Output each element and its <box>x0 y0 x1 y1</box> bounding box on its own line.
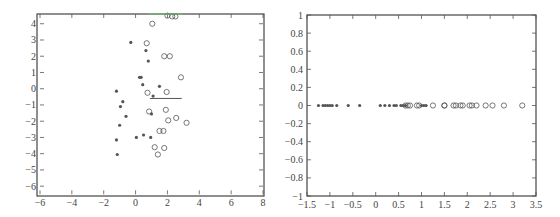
x-tick-label: 1.5 <box>438 199 451 210</box>
circle-marker <box>483 103 488 108</box>
star-marker <box>129 41 132 44</box>
x-tick-label: 2 <box>465 199 470 210</box>
x-tick-label: 4 <box>197 197 202 208</box>
y-tick-label: −0.8 <box>285 172 303 183</box>
x-tick-label: −4 <box>67 197 78 208</box>
y-tick-label: −0.2 <box>285 118 303 129</box>
circle-marker <box>174 115 179 120</box>
y-tick-label: 0.2 <box>291 82 304 93</box>
star-marker <box>135 136 138 139</box>
circle-marker <box>163 107 168 112</box>
y-tick-label: 0.4 <box>291 64 304 75</box>
star-marker <box>151 94 154 97</box>
right-y-tick-labels: 10.80.60.40.20−0.2−0.4−0.6−0.8−1 <box>285 10 303 202</box>
right-data-series <box>317 103 525 108</box>
y-tick-label: 2 <box>31 51 36 62</box>
y-tick-label: 0 <box>31 83 36 94</box>
star-marker <box>115 90 118 93</box>
circle-marker <box>161 128 166 133</box>
y-tick-label: −5 <box>25 164 36 175</box>
circle-marker <box>178 75 183 80</box>
circle-marker <box>150 21 155 26</box>
x-tick-label: 3 <box>511 199 516 210</box>
y-tick-label: 0 <box>298 100 303 111</box>
circle-marker <box>520 103 525 108</box>
star-marker <box>121 100 124 103</box>
circle-marker <box>145 90 150 95</box>
left-scatter-plot: −6−4−202468 43210−1−2−3−4−5−6 <box>25 13 265 208</box>
y-tick-label: 1 <box>31 67 36 78</box>
y-tick-label: −1 <box>25 99 36 110</box>
left-plot-frame <box>37 14 264 196</box>
x-tick-label: −1 <box>325 199 336 210</box>
star-marker <box>144 49 147 52</box>
left-x-tick-labels: −6−4−202468 <box>35 197 266 208</box>
y-tick-label: −6 <box>25 181 36 192</box>
y-tick-label: −2 <box>25 116 36 127</box>
circle-marker <box>155 152 160 157</box>
star-marker <box>124 115 127 118</box>
right-scatter-plot: −1.5−1−0.500.511.522.533.5 10.80.60.40.2… <box>285 10 542 211</box>
x-tick-label: −2 <box>98 197 109 208</box>
star-marker <box>158 85 161 88</box>
x-tick-label: −0.5 <box>344 199 362 210</box>
circle-marker <box>184 120 189 125</box>
star-marker <box>383 104 386 107</box>
star-marker <box>317 104 320 107</box>
x-tick-label: 0 <box>133 197 138 208</box>
x-tick-label: 2.5 <box>484 199 497 210</box>
star-marker <box>118 124 121 127</box>
circle-marker <box>144 41 149 46</box>
circle-marker <box>152 145 157 150</box>
y-tick-label: 4 <box>31 18 36 29</box>
star-marker <box>358 104 361 107</box>
x-tick-label: 2 <box>165 197 170 208</box>
y-tick-label: −0.4 <box>285 136 303 147</box>
y-tick-label: −4 <box>25 148 36 159</box>
y-tick-label: −1 <box>292 191 303 202</box>
circle-marker <box>430 103 435 108</box>
figure: −6−4−202468 43210−1−2−3−4−5−6 −1.5−1−0.5… <box>0 0 560 217</box>
x-tick-label: −6 <box>35 197 46 208</box>
circle-marker <box>490 103 495 108</box>
y-tick-label: 1 <box>298 10 303 21</box>
x-tick-label: 0.5 <box>392 199 405 210</box>
circle-marker <box>442 103 447 108</box>
right-x-tick-labels: −1.5−1−0.500.511.522.533.5 <box>298 199 542 210</box>
left-y-tick-labels: 43210−1−2−3−4−5−6 <box>25 18 36 191</box>
y-tick-label: 3 <box>31 34 36 45</box>
star-marker <box>142 133 145 136</box>
circle-marker <box>501 103 506 108</box>
star-marker <box>379 104 382 107</box>
star-marker <box>335 104 338 107</box>
x-tick-label: 0 <box>373 199 378 210</box>
star-marker <box>395 104 398 107</box>
star-marker <box>149 136 152 139</box>
y-tick-label: 0.8 <box>291 28 304 39</box>
star-marker <box>147 60 150 63</box>
circle-marker <box>166 118 171 123</box>
x-tick-label: 1 <box>419 199 424 210</box>
x-tick-label: 8 <box>261 197 266 208</box>
circle-marker <box>162 54 167 59</box>
star-marker <box>115 138 118 141</box>
circle-marker <box>173 14 178 19</box>
circle-marker <box>147 109 152 114</box>
left-axis-ticks <box>40 14 263 194</box>
x-tick-label: 3.5 <box>530 199 543 210</box>
star-marker <box>140 76 143 79</box>
star-marker <box>424 104 427 107</box>
x-tick-label: 6 <box>229 197 234 208</box>
star-marker <box>141 83 144 86</box>
star-marker <box>331 104 334 107</box>
y-tick-label: 0.6 <box>291 46 304 57</box>
star-marker <box>119 105 122 108</box>
y-tick-label: −0.6 <box>285 154 303 165</box>
star-marker <box>347 104 350 107</box>
left-data-series <box>115 13 189 157</box>
circle-marker <box>167 54 172 59</box>
star-marker <box>388 104 391 107</box>
circle-marker <box>164 89 169 94</box>
y-tick-label: −3 <box>25 132 36 143</box>
circle-marker <box>162 145 167 150</box>
